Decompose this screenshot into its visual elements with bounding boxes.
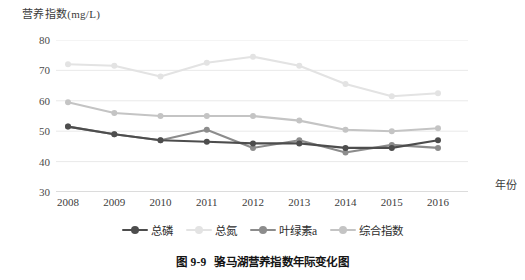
x-tick-label: 2011 bbox=[196, 196, 218, 208]
data-point bbox=[204, 127, 210, 133]
data-point bbox=[204, 139, 210, 145]
data-point bbox=[343, 145, 349, 151]
data-point bbox=[250, 140, 256, 146]
legend-label: 总氮 bbox=[215, 222, 237, 238]
legend-item[interactable]: 总磷 bbox=[122, 222, 173, 238]
legend-label: 叶绿素a bbox=[279, 222, 317, 238]
y-tick-label: 50 bbox=[20, 125, 50, 137]
caption-text: 骆马湖营养指数年际变化图 bbox=[214, 256, 348, 268]
data-point bbox=[158, 137, 164, 143]
legend-item[interactable]: 综合指数 bbox=[330, 222, 403, 238]
x-axis-title: 年份 bbox=[495, 176, 517, 192]
series-line bbox=[68, 57, 438, 96]
series-2 bbox=[65, 124, 441, 156]
data-point bbox=[435, 137, 441, 143]
data-point bbox=[65, 61, 71, 67]
figure-container: 营养指数(mg/L) 年份 304050607080 2008200920102… bbox=[0, 0, 525, 280]
y-tick-label: 30 bbox=[20, 186, 50, 198]
data-point bbox=[389, 93, 395, 99]
legend-marker-icon bbox=[186, 225, 212, 235]
legend-label: 综合指数 bbox=[359, 222, 403, 238]
x-tick-label: 2010 bbox=[150, 196, 172, 208]
data-point bbox=[158, 74, 164, 80]
data-point bbox=[111, 131, 117, 137]
data-point bbox=[343, 127, 349, 133]
x-tick-label: 2012 bbox=[242, 196, 264, 208]
caption-number: 图 9-9 bbox=[176, 256, 206, 268]
data-point bbox=[111, 63, 117, 69]
y-tick-label: 40 bbox=[20, 156, 50, 168]
x-tick-label: 2009 bbox=[103, 196, 125, 208]
data-point bbox=[65, 124, 71, 130]
y-tick-label: 70 bbox=[20, 64, 50, 76]
chart-legend: 总磷总氮叶绿素a综合指数 bbox=[0, 222, 525, 238]
data-point bbox=[296, 118, 302, 124]
plot-area bbox=[56, 40, 468, 192]
legend-marker-icon bbox=[122, 225, 148, 235]
x-tick-label: 2015 bbox=[381, 196, 403, 208]
legend-marker-icon bbox=[250, 225, 276, 235]
legend-label: 总磷 bbox=[151, 222, 173, 238]
x-tick-label: 2008 bbox=[57, 196, 79, 208]
data-point bbox=[389, 128, 395, 134]
line-chart-svg bbox=[56, 40, 468, 192]
data-point bbox=[389, 145, 395, 151]
legend-item[interactable]: 叶绿素a bbox=[250, 222, 317, 238]
data-point bbox=[343, 81, 349, 87]
y-tick-label: 60 bbox=[20, 95, 50, 107]
data-point bbox=[204, 60, 210, 66]
series-1 bbox=[65, 54, 441, 99]
legend-marker-icon bbox=[330, 225, 356, 235]
y-axis-title: 营养指数(mg/L) bbox=[22, 5, 100, 21]
data-point bbox=[296, 140, 302, 146]
legend-item[interactable]: 总氮 bbox=[186, 222, 237, 238]
x-tick-label: 2013 bbox=[288, 196, 310, 208]
x-tick-label: 2014 bbox=[335, 196, 357, 208]
data-point bbox=[296, 63, 302, 69]
data-point bbox=[250, 113, 256, 119]
data-point bbox=[435, 145, 441, 151]
data-point bbox=[435, 90, 441, 96]
data-point bbox=[158, 113, 164, 119]
data-point bbox=[435, 125, 441, 131]
data-point bbox=[250, 54, 256, 60]
figure-caption: 图 9-9骆马湖营养指数年际变化图 bbox=[0, 253, 525, 269]
data-point bbox=[111, 110, 117, 116]
y-tick-label: 80 bbox=[20, 34, 50, 46]
data-point bbox=[204, 113, 210, 119]
series-3 bbox=[65, 99, 441, 134]
data-point bbox=[65, 99, 71, 105]
x-tick-label: 2016 bbox=[427, 196, 449, 208]
